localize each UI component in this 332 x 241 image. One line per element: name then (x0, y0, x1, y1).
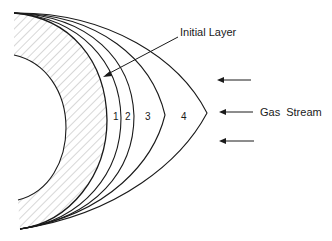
layer-3-label: 3 (145, 112, 151, 122)
gas-stream-arrow-top (217, 77, 251, 83)
gas-stream-arrow-middle (219, 109, 253, 115)
layer-4-label: 4 (181, 112, 187, 122)
gas-stream-arrow-bottom (219, 138, 254, 144)
gas-stream-label: Gas Stream (260, 107, 322, 118)
layer-1-label: 1 (113, 112, 119, 122)
layer-growth-diagram (0, 0, 332, 241)
layer-2-label: 2 (125, 112, 131, 122)
initial-layer-leader-line (106, 37, 178, 75)
initial-layer-label: Initial Layer (180, 27, 236, 38)
